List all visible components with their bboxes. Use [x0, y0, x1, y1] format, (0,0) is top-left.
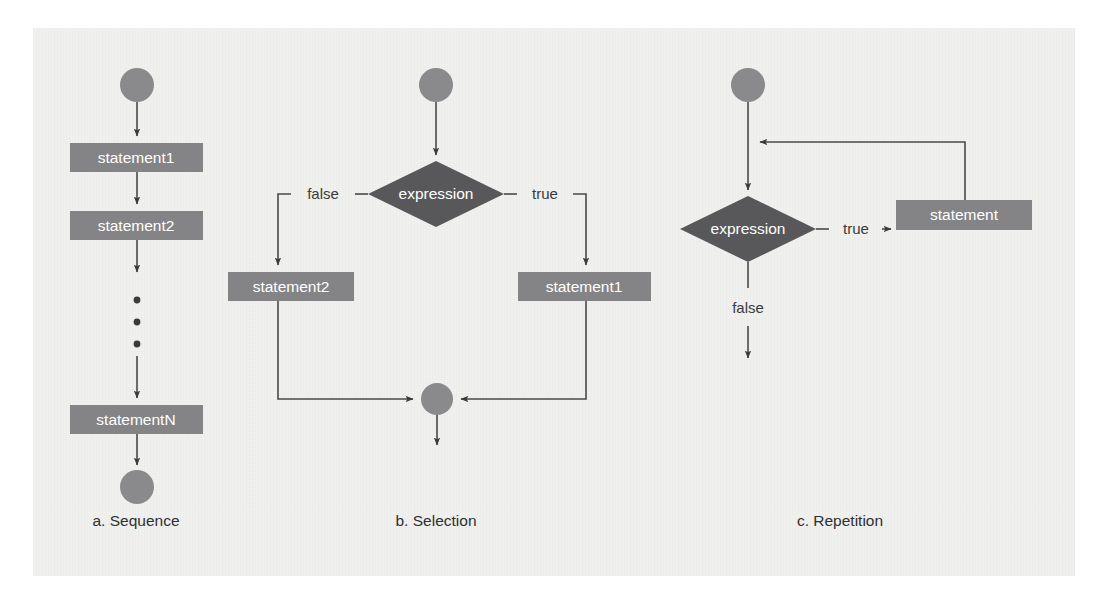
sequence-ellipsis — [134, 297, 141, 348]
sequence-diagram: statement1 statement2 statementN a. Sequ… — [70, 68, 203, 529]
repetition-label-statement: statement — [930, 206, 999, 223]
selection-merge-node — [421, 383, 453, 415]
selection-diagram: expression false statement2 true stateme… — [228, 68, 651, 529]
sequence-label-statement1: statement1 — [98, 149, 175, 166]
selection-edge-false-to-statement2 — [278, 194, 291, 265]
sequence-label-statementN: statementN — [96, 411, 175, 428]
selection-start-node — [419, 68, 453, 102]
sequence-caption: a. Sequence — [92, 512, 179, 529]
sequence-start-node — [120, 68, 154, 102]
flowchart-canvas: statement1 statement2 statementN a. Sequ… — [0, 0, 1097, 600]
selection-caption: b. Selection — [396, 512, 477, 529]
selection-label-statement2: statement2 — [253, 278, 330, 295]
selection-label-statement1: statement1 — [546, 278, 623, 295]
repetition-label-false: false — [732, 299, 764, 316]
repetition-edge-loopback — [760, 142, 965, 200]
selection-label-false: false — [307, 185, 339, 202]
sequence-label-statement2: statement2 — [98, 217, 175, 234]
selection-label-expression: expression — [399, 185, 474, 202]
repetition-label-expression: expression — [711, 220, 786, 237]
repetition-caption: c. Repetition — [797, 512, 883, 529]
selection-label-true: true — [532, 185, 558, 202]
repetition-label-true: true — [843, 220, 869, 237]
selection-edge-true-to-statement1 — [573, 194, 586, 265]
repetition-start-node — [731, 68, 765, 102]
selection-edge-statement2-to-merge — [278, 301, 413, 399]
sequence-end-node — [120, 470, 154, 504]
selection-edge-statement1-to-merge — [461, 301, 586, 399]
repetition-diagram: expression true statement false c. Repet… — [680, 68, 1032, 529]
figure-page: statement1 statement2 statementN a. Sequ… — [0, 0, 1097, 600]
